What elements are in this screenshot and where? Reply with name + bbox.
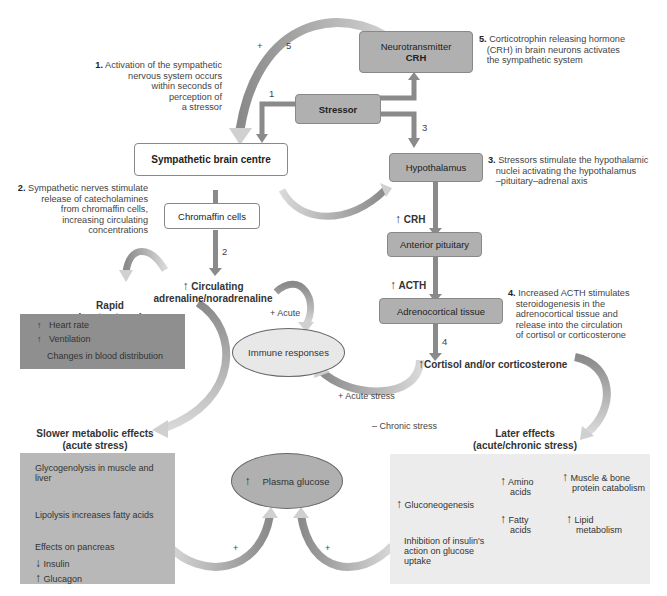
later-amino-acids: ↑ Amino acids <box>500 476 534 497</box>
slower-item-lipolysis: Lipolysis increases fatty acids <box>35 510 154 520</box>
up-arrow-icon: ↑ <box>396 497 402 511</box>
later-inhibition-insulin: Inhibition of insulin'saction on glucose… <box>404 536 484 566</box>
up-arrow-icon: ↑ <box>182 279 188 293</box>
up-arrow-icon: ↑ <box>390 278 396 292</box>
later-gluconeogenesis: ↑ Gluconeogenesis <box>396 497 474 511</box>
chronic-stress-label: – Chronic stress <box>372 421 437 431</box>
cortisol-label: ↑Cortisol and/or corticosterone <box>418 357 567 371</box>
step-4-label: 4 <box>442 336 447 347</box>
step-1-label: 1 <box>269 88 274 99</box>
rapid-item-ventilation: ↑ Ventilation <box>37 334 91 344</box>
up-arrow-icon: ↑ <box>566 512 572 526</box>
later-panel: ↑ Gluconeogenesis ↑ Amino acids ↑ Fatty … <box>390 454 650 584</box>
anterior-pituitary-box: Anterior pituitary <box>387 232 482 257</box>
up-arrow-icon: ↑ <box>244 474 250 488</box>
stressor-box: Stressor <box>295 94 381 124</box>
sympathetic-brain-centre-box: Sympathetic brain centre <box>134 143 288 176</box>
plasma-glucose-node: ↑Plasma glucose <box>231 453 343 509</box>
up-arrow-icon: ↑ <box>35 571 41 585</box>
step-5-label: 5 <box>286 40 291 51</box>
up-arrow-icon: ↑ <box>500 474 506 488</box>
crh-label: ↑ CRH <box>395 212 425 226</box>
acute-label: + Acute <box>270 308 300 318</box>
adrenocortical-tissue-box: Adrenocortical tissue <box>379 298 503 324</box>
acute-stress-label: + Acute stress <box>338 391 395 401</box>
up-arrow-icon: ↑ <box>37 334 42 344</box>
neurotransmitter-crh-box: Neurotransmitter CRH <box>359 31 473 73</box>
up-arrow-icon: ↑ <box>37 320 42 330</box>
plus-label-left: + <box>233 543 238 553</box>
slower-item-insulin: ↓ Insulin <box>35 556 70 570</box>
slower-title: Slower metabolic effects(acute stress) <box>20 428 170 452</box>
circulating-adrenaline-label: ↑ Circulating adrenaline/noradrenaline <box>148 280 278 305</box>
step-2-label: 2 <box>222 246 227 257</box>
rapid-item-heart-rate: ↑ Heart rate <box>37 320 89 330</box>
chromaffin-cells-box: Chromaffin cells <box>164 203 260 229</box>
up-arrow-icon: ↑ <box>500 512 506 526</box>
up-arrow-icon: ↑ <box>395 212 401 226</box>
slower-item-pancreas: Effects on pancreas <box>35 542 114 552</box>
up-arrow-icon: ↑ <box>562 470 568 484</box>
note-1: 1. Activation of the sympathetic nervous… <box>90 60 222 113</box>
note-4: 4. Increased ACTH stimulates steroidogen… <box>508 288 667 341</box>
step-3-label: 3 <box>422 122 427 133</box>
later-muscle-bone: ↑ Muscle & bone protein catabolism <box>562 472 645 493</box>
slower-item-glycogenolysis: Glycogenolysis in muscle andliver <box>35 463 154 483</box>
rapid-panel: ↑ Heart rate ↑ Ventilation Changes in bl… <box>20 314 185 369</box>
plus-label-right: + <box>325 543 330 553</box>
acth-label: ↑ ACTH <box>390 278 426 292</box>
plus-label-top: + <box>257 40 263 51</box>
slower-panel: Glycogenolysis in muscle andliver Lipoly… <box>20 453 175 584</box>
later-lipid-metabolism: ↑ Lipid metabolism <box>566 514 622 535</box>
immune-responses-node: Immune responses <box>232 328 345 377</box>
later-fatty-acids: ↑ Fatty acids <box>500 514 531 535</box>
note-5: 5. Corticotrophin releasing hormone (CRH… <box>479 34 664 66</box>
hypothalamus-box: Hypothalamus <box>389 153 483 182</box>
note-3: 3. Stressors stimulate the hypothalamic … <box>488 155 667 187</box>
rapid-item-blood-distribution: Changes in blood distribution <box>47 351 163 361</box>
later-title: Later effects(acute/chronic stress) <box>450 428 600 452</box>
down-arrow-icon: ↓ <box>35 556 41 570</box>
note-2: 2. Sympathetic nerves stimulate release … <box>10 183 148 236</box>
slower-item-glucagon: ↑ Glucagon <box>35 571 82 585</box>
